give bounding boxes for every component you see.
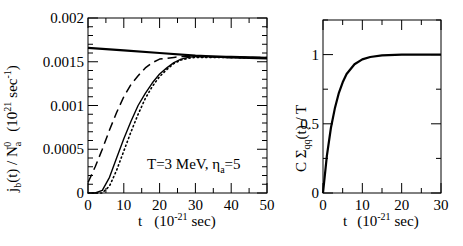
- ytick-label: 1: [312, 47, 320, 63]
- ytick-label: 0.001: [50, 98, 84, 114]
- xtick-label: 0: [84, 197, 92, 213]
- left-panel: 00.00050.0010.00150.002 01020304050 T=3 …: [2, 10, 275, 230]
- ytick-label: 0: [312, 185, 320, 201]
- right-xlabel: t(10-21sec): [343, 211, 419, 230]
- ytick-label: 0.002: [50, 10, 84, 26]
- ytick-label: 0.0005: [43, 141, 84, 157]
- left-ylabel: jb(t) / Na0(1021sec-1): [2, 65, 23, 193]
- ytick-label: 0: [77, 185, 85, 201]
- right-panel: 00.51 0102030 t(10-21sec) C Σqq(t) / T: [293, 20, 449, 230]
- xtick-label: 30: [434, 197, 449, 213]
- left-ytick-labels: 00.00050.0010.00150.002: [43, 10, 84, 201]
- xtick-label: 0: [319, 197, 327, 213]
- right-plot-frame: [323, 20, 441, 193]
- xtick-label: 30: [188, 197, 203, 213]
- xtick-label: 20: [394, 197, 409, 213]
- ytick-label: 0.0015: [43, 54, 84, 70]
- xtick-label: 10: [116, 197, 131, 213]
- right-series: [323, 55, 441, 193]
- left-xlabel: t(10-21sec): [138, 211, 216, 230]
- series-sigma: [323, 55, 441, 193]
- xtick-label: 50: [260, 197, 275, 213]
- left-annotation: T=3 MeV, ηa=5: [147, 156, 241, 175]
- xtick-label: 40: [224, 197, 239, 213]
- xtick-label: 10: [355, 197, 370, 213]
- xtick-label: 20: [152, 197, 167, 213]
- series-dotted: [88, 57, 267, 193]
- right-ticks: [323, 20, 441, 193]
- figure: 00.00050.0010.00150.002 01020304050 T=3 …: [0, 0, 463, 246]
